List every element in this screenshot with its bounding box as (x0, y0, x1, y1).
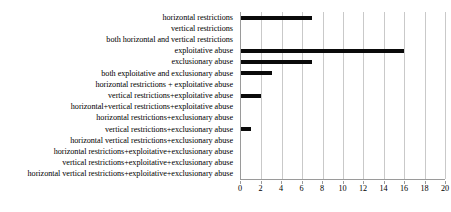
bar-row (241, 45, 445, 56)
x-axis: 02468101214161820 (240, 181, 445, 203)
bar (241, 127, 251, 131)
x-tick-label: 0 (238, 185, 242, 193)
category-label: both exploitative and exclusionary abuse (0, 68, 237, 79)
category-label: vertical restrictions (0, 23, 237, 34)
category-label: horizontal vertical restrictions+exploit… (0, 169, 237, 180)
x-tick-label: 20 (441, 185, 449, 193)
x-tick-label: 14 (379, 185, 387, 193)
bar-row (241, 34, 445, 45)
bar-row (241, 157, 445, 168)
bar-row (241, 68, 445, 79)
category-label: vertical restrictions+exploitative abuse (0, 90, 237, 101)
category-label: horizontal+vertical restrictions+exploit… (0, 102, 237, 113)
bar-row (241, 112, 445, 123)
category-label: exploitative abuse (0, 46, 237, 57)
x-tick-label: 16 (400, 185, 408, 193)
category-label: both horizontal and vertical restriction… (0, 34, 237, 45)
bar-row (241, 90, 445, 101)
bar (241, 71, 272, 75)
gridline (445, 12, 446, 179)
bar-row (241, 23, 445, 34)
x-tick-label: 4 (279, 185, 283, 193)
category-label: horizontal restrictions+exploitative+exc… (0, 146, 237, 157)
x-tick-label: 18 (420, 185, 428, 193)
x-tick-label: 2 (258, 185, 262, 193)
horizontal-bar-chart: horizontal restrictionsvertical restrict… (0, 0, 451, 212)
x-tick-label: 10 (338, 185, 346, 193)
category-label: horizontal restrictions + exploitative a… (0, 79, 237, 90)
category-label: vertical restrictions+exploitative+exclu… (0, 158, 237, 169)
category-label: exclusionary abuse (0, 57, 237, 68)
x-tick-label: 8 (320, 185, 324, 193)
bar-row (241, 79, 445, 90)
category-label: horizontal vertical restrictions+exclusi… (0, 135, 237, 146)
bar (241, 60, 312, 64)
bar-row (241, 146, 445, 157)
bar-series (241, 12, 445, 179)
bar-row (241, 123, 445, 134)
bar-row (241, 101, 445, 112)
category-label: horizontal restrictions+exclusionary abu… (0, 113, 237, 124)
category-label: vertical restrictions+exclusionary abuse (0, 124, 237, 135)
bar-row (241, 12, 445, 23)
plot-area (240, 12, 445, 180)
bar (241, 16, 312, 20)
bar (241, 94, 261, 98)
bar-row (241, 57, 445, 68)
bar (241, 49, 404, 53)
category-label: horizontal restrictions (0, 12, 237, 23)
x-tick-label: 12 (359, 185, 367, 193)
category-label-column: horizontal restrictionsvertical restrict… (0, 12, 237, 180)
x-tick-label: 6 (299, 185, 303, 193)
bar-row (241, 135, 445, 146)
bar-row (241, 168, 445, 179)
